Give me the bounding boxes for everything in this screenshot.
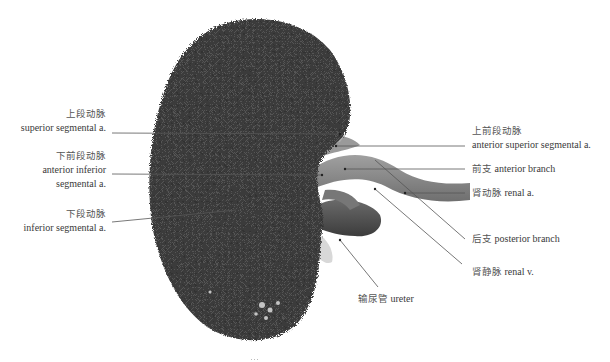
label-anterior-branch: 前支 anterior branch	[472, 162, 555, 176]
kidney-diagram: 上段动脉 superior segmental a. 下前段动脉 anterio…	[0, 0, 610, 362]
label-renal-vein: 肾静脉 renal v.	[472, 265, 534, 279]
label-superior-segmental-artery: 上段动脉 superior segmental a.	[21, 107, 106, 135]
label-renal-artery: 肾动脉 renal a.	[472, 186, 534, 200]
label-anterior-inferior-segmental-artery: 下前段动脉 anterior inferior segmental a.	[42, 149, 106, 191]
label-anterior-superior-segmental-artery: 上前段动脉 anterior superior segmental a.	[472, 124, 591, 152]
label-inferior-segmental-artery: 下段动脉 inferior segmental a.	[24, 207, 106, 235]
figure-caption-partial: …	[250, 352, 260, 362]
label-ureter: 输尿管 ureter	[358, 292, 414, 306]
label-posterior-branch: 后支 posterior branch	[472, 232, 560, 246]
